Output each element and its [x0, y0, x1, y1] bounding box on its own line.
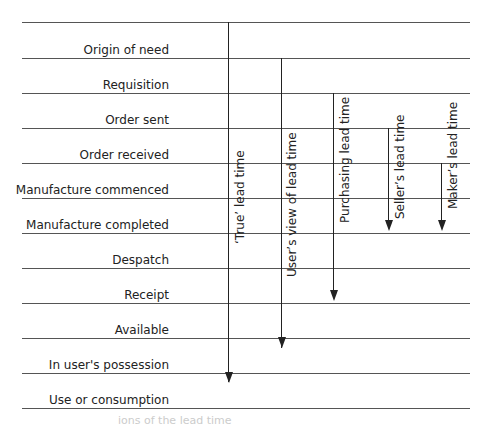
arrow-down-icon: [278, 337, 286, 348]
users-view-lead-time-arrow: [281, 58, 282, 348]
true-lead-time-label: ‘True’ lead time: [233, 150, 247, 244]
arrow-down-icon: [225, 372, 233, 383]
arrow-down-icon: [385, 220, 393, 231]
row-divider: [22, 268, 470, 269]
stage-label-in-users-possession: In user's possession: [49, 358, 169, 372]
stage-label-available: Available: [115, 323, 169, 337]
stage-label-receipt: Receipt: [124, 288, 169, 302]
purchasing-lead-time-label: Purchasing lead time: [338, 97, 352, 223]
stage-label-origin-of-need: Origin of need: [84, 43, 169, 57]
purchasing-lead-time-arrow: [333, 93, 334, 298]
users-view-lead-time-label: User’s view of lead time: [285, 132, 299, 277]
stage-label-manufacture-completed: Manufacture completed: [26, 218, 169, 232]
row-divider: [22, 58, 470, 59]
sellers-lead-time-label: Seller’s lead time: [393, 115, 407, 219]
row-divider: [22, 408, 470, 409]
arrow-down-icon: [438, 220, 446, 231]
figure-caption-fragment: ions of the lead time: [118, 414, 232, 427]
makers-lead-time-arrow: [441, 163, 442, 228]
stage-label-order-received: Order received: [80, 148, 169, 162]
row-divider: [22, 93, 470, 94]
sellers-lead-time-arrow: [388, 128, 389, 228]
stage-label-despatch: Despatch: [112, 253, 169, 267]
row-divider: [22, 338, 470, 339]
makers-lead-time-label: Maker’s lead time: [446, 102, 460, 209]
true-lead-time-arrow: [228, 22, 229, 382]
stage-label-manufacture-commenced: Manufacture commenced: [16, 183, 169, 197]
row-divider: [22, 303, 470, 304]
stage-label-use-or-consumption: Use or consumption: [49, 393, 169, 407]
row-divider: [22, 22, 470, 23]
stage-label-order-sent: Order sent: [105, 113, 169, 127]
stage-label-requisition: Requisition: [103, 78, 169, 92]
row-divider: [22, 373, 470, 374]
arrow-down-icon: [330, 290, 338, 301]
